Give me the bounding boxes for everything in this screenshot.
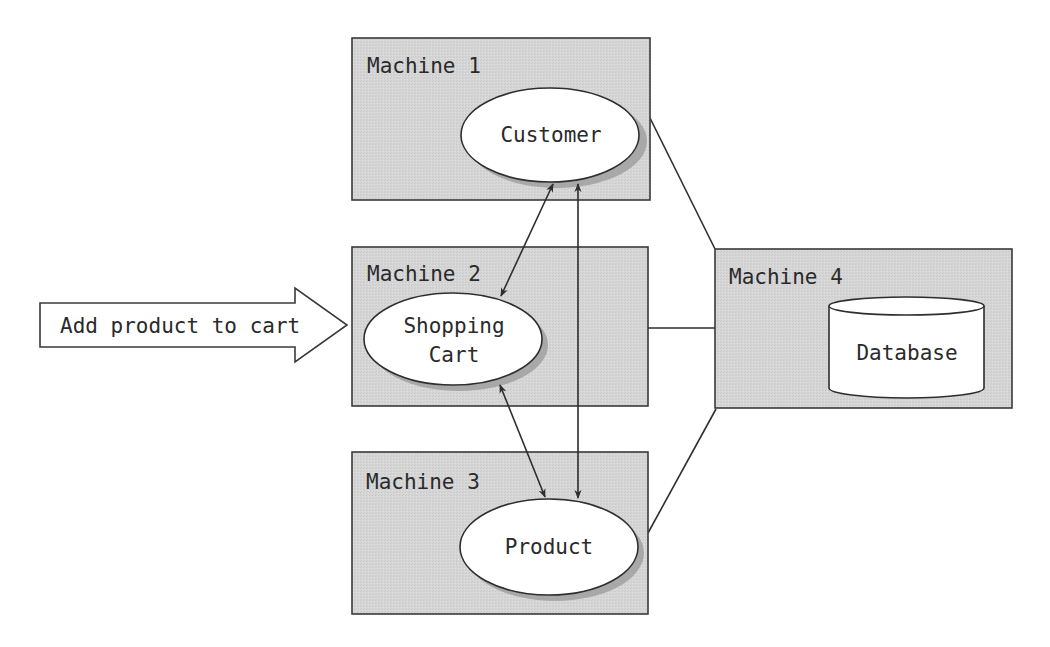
shopping-cart-label-line2: Cart bbox=[429, 343, 480, 367]
machine-3-box: Machine 3 Product bbox=[352, 452, 648, 614]
link-machine3-machine4 bbox=[648, 409, 716, 533]
machine-1-box: Machine 1 Customer bbox=[352, 38, 650, 200]
architecture-diagram: Machine 1 Customer Machine 2 Shopping Ca… bbox=[0, 0, 1050, 647]
add-product-input-arrow: Add product to cart bbox=[40, 288, 347, 362]
machine-2-box: Machine 2 Shopping Cart bbox=[352, 247, 648, 406]
machine-2-label: Machine 2 bbox=[367, 262, 481, 286]
product-label: Product bbox=[505, 535, 594, 559]
machine-4-label: Machine 4 bbox=[729, 265, 843, 289]
input-arrow-label: Add product to cart bbox=[60, 314, 300, 338]
shopping-cart-node bbox=[364, 293, 542, 385]
database-label: Database bbox=[856, 341, 957, 365]
customer-label: Customer bbox=[500, 123, 601, 147]
machine-3-label: Machine 3 bbox=[366, 470, 480, 494]
shopping-cart-label-line1: Shopping bbox=[403, 314, 504, 338]
machine-1-label: Machine 1 bbox=[367, 54, 481, 78]
machine-4-box: Machine 4 Database bbox=[715, 249, 1012, 408]
link-machine1-machine4 bbox=[650, 118, 715, 249]
